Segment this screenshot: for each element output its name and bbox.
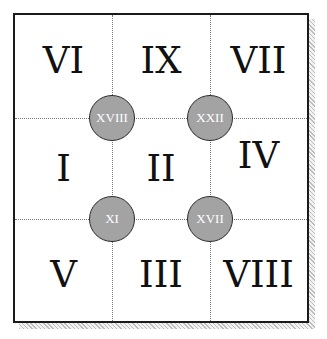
sum-node-bottom-left: XI xyxy=(89,196,135,242)
sum-node-bottom-right: XVII xyxy=(187,196,233,242)
grid-cell-r2c0: V xyxy=(15,227,112,321)
grid-cell-r0c1: IX xyxy=(112,15,210,105)
grid-cell-r0c0: VI xyxy=(15,15,112,105)
grid-cell-r2c1: III xyxy=(112,227,210,321)
puzzle-board: VI IX VII I II IV V III VIII XVIII XXII … xyxy=(13,13,309,323)
grid-cell-r0c2: VII xyxy=(210,15,307,105)
sum-node-top-right: XXII xyxy=(187,95,233,141)
grid-line-horizontal-2 xyxy=(15,219,307,220)
sum-node-top-left: XVIII xyxy=(89,95,135,141)
grid-cell-r2c2: VIII xyxy=(210,227,307,321)
